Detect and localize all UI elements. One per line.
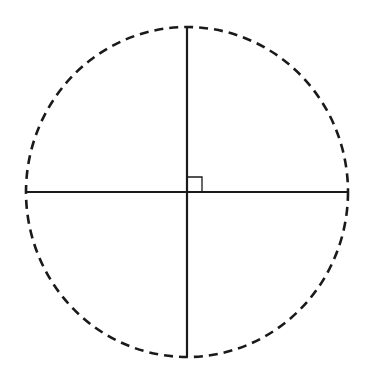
right-angle-marker [187,177,202,192]
circle-diagram [0,0,375,374]
